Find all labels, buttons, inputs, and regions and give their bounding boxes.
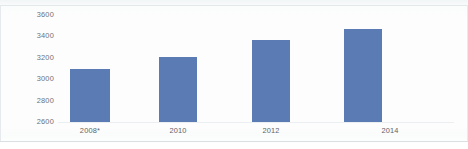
bar — [70, 69, 110, 123]
bar — [159, 57, 197, 122]
bars-layer: 2008*201020122014 — [0, 0, 468, 149]
x-axis-tick-label: 2012 — [241, 126, 301, 135]
x-axis-tick-label: 2008* — [60, 126, 120, 135]
bar — [344, 29, 382, 122]
x-axis-tick-label: 2010 — [148, 126, 208, 135]
bar-chart: 360034003200300028002600 2008*2010201220… — [0, 0, 468, 149]
x-axis-tick-label: 2014 — [360, 126, 420, 135]
bar — [252, 40, 290, 122]
